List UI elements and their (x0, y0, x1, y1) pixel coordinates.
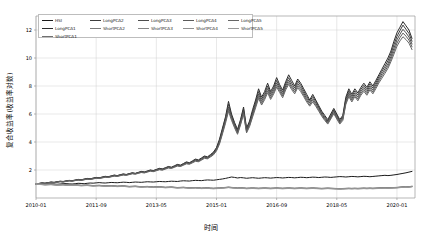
x-tick-label: 2010-01 (26, 202, 47, 208)
legend-label: HSI (55, 18, 62, 23)
legend-label: LongPCA4 (196, 18, 217, 23)
legend-label: ShortPCA2 (103, 26, 125, 31)
x-tick-label: 2013-05 (146, 202, 167, 208)
legend-entry: LongPCA2 (90, 18, 138, 23)
legend-entry: ShortPCA3 (138, 26, 183, 31)
legend-label: LongPCA5 (241, 18, 262, 23)
legend-entry: ShortPCA1 (42, 34, 90, 39)
legend-swatch-line-icon (228, 28, 239, 29)
legend-entry: ShortPCA2 (90, 26, 138, 31)
chart-figure: 246810122010-012011-092013-052015-012016… (0, 0, 423, 241)
legend-entry: LongPCA1 (42, 26, 90, 31)
legend-label: ShortPCA5 (241, 26, 263, 31)
legend-swatch-line-icon (138, 28, 149, 29)
legend-swatch-line-icon (42, 36, 53, 37)
legend-swatch-line-icon (42, 28, 53, 29)
legend-label: ShortPCA3 (151, 26, 173, 31)
legend-label: LongPCA2 (103, 18, 124, 23)
legend-entry: ShortPCA5 (228, 26, 273, 31)
legend-swatch-line-icon (183, 20, 194, 21)
legend-entry: LongPCA3 (138, 18, 183, 23)
x-tick-label: 2018-05 (326, 202, 347, 208)
y-tick-label: 12 (26, 27, 32, 33)
legend-swatch-line-icon (90, 28, 101, 29)
x-tick-label: 2015-01 (206, 202, 227, 208)
x-tick-label: 2016-09 (266, 202, 287, 208)
legend-grid: HSILongPCA2LongPCA3LongPCA4LongPCA5LongP… (42, 17, 249, 40)
legend: HSILongPCA2LongPCA3LongPCA4LongPCA5LongP… (38, 14, 253, 38)
y-tick-label: 10 (26, 55, 32, 61)
legend-swatch-line-icon (228, 20, 239, 21)
legend-label: LongPCA1 (55, 26, 76, 31)
legend-swatch-line-icon (138, 20, 149, 21)
y-tick-label: 8 (29, 83, 32, 89)
x-tick-label: 2011-09 (86, 202, 107, 208)
legend-swatch-line-icon (42, 20, 53, 21)
legend-swatch-line-icon (183, 28, 194, 29)
legend-swatch-line-icon (90, 20, 101, 21)
legend-entry: LongPCA5 (228, 18, 273, 23)
legend-label: LongPCA3 (151, 18, 172, 23)
x-tick-label: 2020-01 (386, 202, 407, 208)
legend-entry: LongPCA4 (183, 18, 228, 23)
x-axis-title: 时间 (0, 222, 423, 232)
y-tick-label: 4 (29, 139, 32, 145)
legend-label: ShortPCA4 (196, 26, 218, 31)
legend-label: ShortPCA1 (55, 34, 77, 39)
y-tick-label: 6 (29, 111, 32, 117)
plot-background (36, 16, 415, 198)
y-tick-label: 2 (29, 167, 32, 173)
legend-entry: HSI (42, 18, 90, 23)
legend-entry: ShortPCA4 (183, 26, 228, 31)
y-axis-title: 复合收益率(收益率对数) (4, 45, 14, 175)
